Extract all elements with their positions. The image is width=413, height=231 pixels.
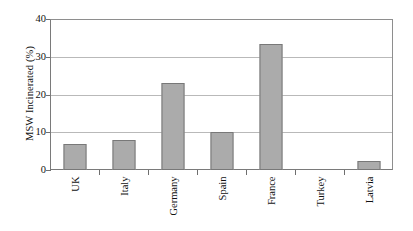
- bar-spain: [210, 132, 233, 170]
- bars-layer: [50, 19, 393, 170]
- bar-chart: MSW Incinerated (%) 010203040 UKItalyGer…: [0, 0, 413, 230]
- x-tick-label: UK: [69, 177, 80, 231]
- x-tick-label: France: [265, 177, 276, 231]
- bar-france: [259, 44, 282, 170]
- bar-slot: [246, 19, 295, 170]
- bar-slot: [148, 19, 197, 170]
- bar-italy: [112, 140, 135, 170]
- bar-germany: [161, 83, 184, 170]
- bar-slot: [99, 19, 148, 170]
- x-label-slot: France: [246, 170, 295, 230]
- bar-slot: [50, 19, 99, 170]
- y-axis-title: MSW Incinerated (%): [24, 20, 35, 168]
- bar-uk: [63, 144, 86, 170]
- x-label-slot: Turkey: [295, 170, 344, 230]
- bar-slot: [197, 19, 246, 170]
- x-tick-label: Turkey: [314, 177, 325, 231]
- x-tick-label: Italy: [118, 177, 129, 231]
- x-label-slot: Spain: [197, 170, 246, 230]
- bar-slot: [344, 19, 393, 170]
- x-label-slot: UK: [50, 170, 99, 230]
- x-tick-label: Spain: [216, 177, 227, 231]
- x-tick-label: Latvia: [363, 177, 374, 231]
- bar-slot: [295, 19, 344, 170]
- x-label-slot: Germany: [148, 170, 197, 230]
- bar-latvia: [357, 161, 380, 170]
- x-axis-labels: UKItalyGermanySpainFranceTurkeyLatvia: [50, 170, 393, 230]
- x-tick-label: Germany: [167, 177, 178, 231]
- x-label-slot: Latvia: [344, 170, 393, 230]
- x-label-slot: Italy: [99, 170, 148, 230]
